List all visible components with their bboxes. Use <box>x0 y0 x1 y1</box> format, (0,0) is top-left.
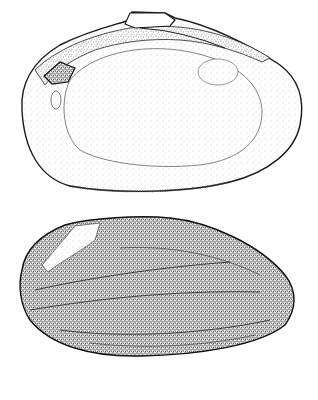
umbo <box>125 13 175 28</box>
exterior-valve <box>20 217 294 356</box>
posterior-muscle-scar <box>198 59 238 85</box>
shell-illustration <box>0 0 318 400</box>
interior-valve <box>22 12 302 191</box>
